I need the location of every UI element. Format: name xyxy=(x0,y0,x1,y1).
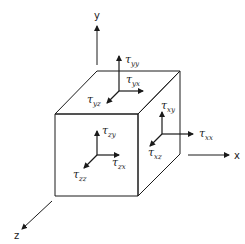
y-axis-label: y xyxy=(94,10,100,21)
tau-zz-arrow xyxy=(84,155,97,168)
stress-cube-diagram: y x z τyy τyx τyz τxx τxy τxz τzy τzx τz… xyxy=(0,0,245,244)
tau-xy-label: τxy xyxy=(161,99,176,114)
tau-xz-arrow xyxy=(150,134,162,146)
tau-yz-label: τyz xyxy=(87,93,101,108)
tau-zx-label: τzx xyxy=(112,156,126,171)
tau-zz-label: τzz xyxy=(73,168,87,183)
tau-xx-label: τxx xyxy=(199,127,213,142)
tau-xz-label: τxz xyxy=(148,146,162,161)
tau-yy-label: τyy xyxy=(125,53,140,68)
x-axis-label: x xyxy=(234,150,240,161)
tau-zy-label: τzy xyxy=(102,124,117,139)
z-axis-arrow xyxy=(22,201,52,229)
z-axis-label: z xyxy=(14,230,19,241)
tau-yx-label: τyx xyxy=(126,73,140,88)
right-face-stresses xyxy=(150,112,193,146)
tau-yz-arrow xyxy=(107,91,119,103)
